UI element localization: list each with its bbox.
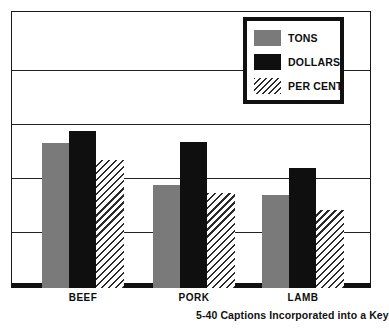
x-axis-label-beef: BEEF [43,292,123,303]
bar-pork-tons [153,185,180,288]
bar-lamb-percent [316,210,344,288]
chart-legend: TONS DOLLARS PER CENT [243,17,344,104]
bar-beef-tons [42,143,69,288]
x-axis-label-lamb: LAMB [263,292,343,303]
legend-swatch-percent-icon [254,78,281,94]
bar-lamb-tons [262,195,289,288]
bar-pork-dollars [180,142,207,288]
legend-label-percent: PER CENT [288,81,343,92]
legend-swatch-tons-icon [254,30,281,46]
legend-label-tons: TONS [288,33,318,44]
legend-label-dollars: DOLLARS [288,57,340,68]
bar-beef-dollars [69,131,96,288]
x-axis-label-pork: PORK [154,292,234,303]
figure-caption: 5-40 Captions Incorporated into a Key [196,309,389,321]
bar-lamb-dollars [289,168,316,288]
bar-beef-percent [96,160,124,288]
legend-entry-dollars: DOLLARS [254,50,340,74]
legend-entry-percent: PER CENT [254,74,340,98]
bar-pork-percent [207,193,235,288]
legend-entry-tons: TONS [254,26,340,50]
legend-swatch-dollars-icon [254,54,281,70]
